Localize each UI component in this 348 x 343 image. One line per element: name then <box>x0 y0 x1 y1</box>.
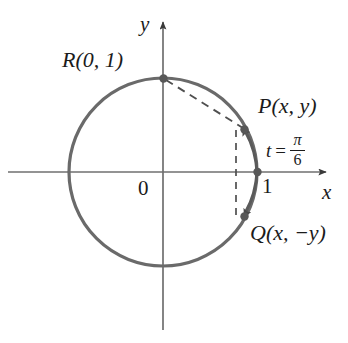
pi-over-six-fraction: π 6 <box>290 132 305 169</box>
point-q <box>240 212 248 220</box>
point-label-p: P(x, y) <box>258 95 317 117</box>
fraction-numerator: π <box>290 132 304 150</box>
point-label-r: R(0, 1) <box>62 49 123 71</box>
arc-parameter-label: t = π 6 <box>266 132 305 169</box>
t-variable: t <box>266 141 271 160</box>
point-r <box>159 74 167 82</box>
origin-label: 0 <box>138 178 149 199</box>
point-p <box>240 125 248 133</box>
fraction-denominator: 6 <box>291 151 305 169</box>
point-one <box>253 168 261 176</box>
equals-sign: = <box>275 141 286 160</box>
figure-canvas <box>0 0 348 343</box>
x-axis-label: x <box>322 182 331 203</box>
point-label-q: Q(x, −y) <box>250 222 326 244</box>
x-tick-label-one: 1 <box>262 176 273 197</box>
y-axis-label: y <box>140 14 149 35</box>
unit-circle-figure: R(0, 1) P(x, y) Q(x, −y) 0 1 x y t = π 6 <box>0 0 348 343</box>
